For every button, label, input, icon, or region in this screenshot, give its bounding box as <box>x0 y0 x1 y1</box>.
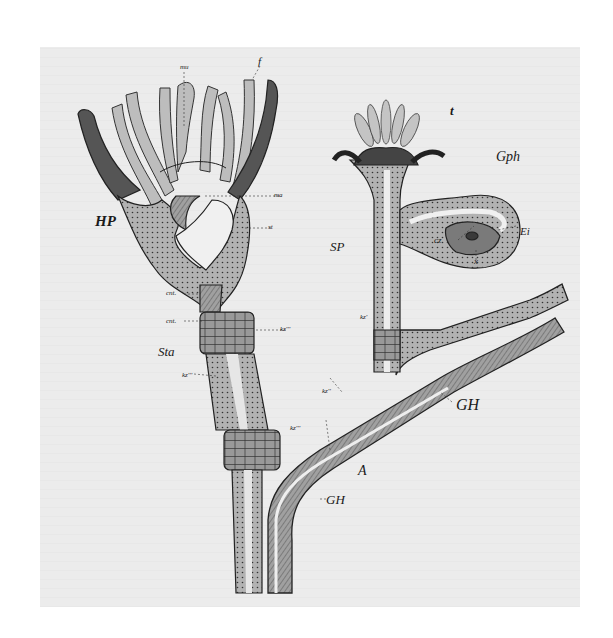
hydroid-drawing <box>0 0 613 638</box>
label-gh-bottom: GH <box>326 493 345 506</box>
label-kz-top: kz' <box>360 314 367 321</box>
sp-tentacles <box>351 100 423 149</box>
label-kz-lower: kz''' <box>290 425 300 432</box>
gonophore <box>400 195 520 268</box>
label-kz-left: kz''' <box>182 372 192 379</box>
label-mu: mu <box>180 64 189 71</box>
label-f: f <box>258 56 261 67</box>
label-cnt-2: cnt. <box>166 318 176 325</box>
label-a: A <box>358 464 367 478</box>
label-ma: ma <box>274 192 283 199</box>
label-kz-mid: kz''' <box>280 326 290 333</box>
label-sp: SP <box>330 240 344 253</box>
label-x: x <box>474 257 478 266</box>
hp-body <box>118 162 250 310</box>
label-gh-right: GH <box>456 397 479 413</box>
label-st: st <box>268 224 273 231</box>
label-cz: cz <box>434 236 442 245</box>
label-ei: Ei <box>520 226 530 237</box>
label-sta: Sta <box>158 345 175 358</box>
label-gph: Gph <box>496 150 520 164</box>
branch-a <box>268 318 564 593</box>
label-t: t <box>450 104 454 117</box>
label-cnt-1: cnt. <box>166 290 176 297</box>
label-hp: HP <box>95 214 116 229</box>
label-kz-branch: kz'' <box>322 388 331 395</box>
